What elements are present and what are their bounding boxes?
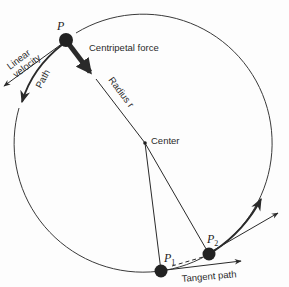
p2-path-arrow: [214, 199, 261, 251]
p2-tangent-arrow: [214, 213, 278, 250]
center-label: Center: [151, 135, 180, 146]
circular-motion-diagram: P P1 P2 Centripetal force Radius r Cente…: [0, 0, 289, 287]
point-p2-label: P2: [206, 232, 218, 248]
point-p-label: P: [56, 19, 65, 33]
centripetal-force-label: Centripetal force: [89, 42, 159, 53]
point-p1-label: P1: [163, 251, 175, 267]
centripetal-force-arrow: [68, 43, 90, 72]
diagram-canvas: P P1 P2 Centripetal force Radius r Cente…: [0, 0, 289, 287]
radius-line-p2: [145, 143, 209, 254]
point-p2-dot: [203, 248, 216, 261]
point-p1-dot: [155, 265, 168, 278]
center-point: [143, 141, 147, 145]
radius-line-p1: [145, 143, 161, 271]
radius-label: Radius r: [106, 75, 136, 110]
point-p-dot: [59, 33, 73, 47]
tangent-path-label: Tangent path: [181, 268, 237, 284]
